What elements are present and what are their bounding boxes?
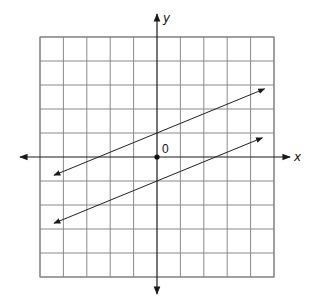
origin-label: 0: [162, 142, 169, 156]
coordinate-plane: x y 0: [0, 0, 314, 306]
series-line-upper: [54, 89, 265, 175]
x-axis-label: x: [293, 150, 302, 164]
origin-point: [154, 154, 159, 159]
axes: [20, 14, 290, 294]
y-axis-label: y: [162, 11, 171, 25]
